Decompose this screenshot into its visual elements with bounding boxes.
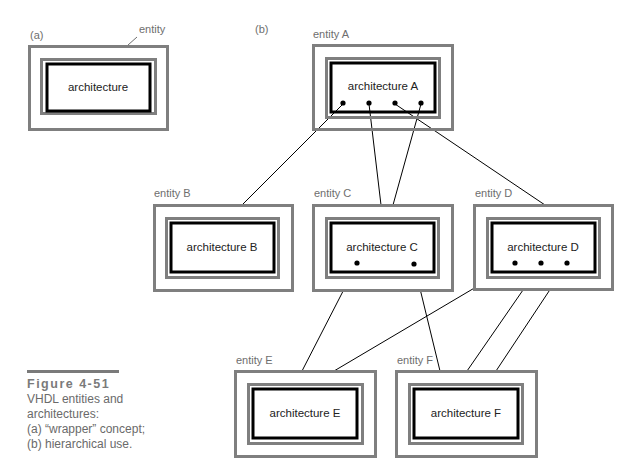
entity-e: entity E architecture E	[236, 354, 376, 457]
caption-line: VHDL entities and	[27, 392, 157, 407]
port-dot	[340, 100, 345, 105]
entity-b: entity B architecture B	[154, 187, 293, 291]
entity-a: entity A architecture A	[313, 28, 453, 130]
port-dot	[512, 260, 517, 265]
panel-b-label: (b)	[255, 23, 268, 35]
architecture-f-label: architecture F	[431, 407, 501, 419]
port-dot	[538, 260, 543, 265]
architecture-a-ports	[340, 100, 423, 105]
architecture-b-label: architecture B	[187, 241, 258, 253]
entity-d-label: entity D	[475, 187, 512, 199]
architecture-d-label: architecture D	[507, 241, 579, 253]
connection-a-c-1	[369, 104, 381, 205]
entity-e-label: entity E	[236, 354, 273, 366]
entity-c-label: entity C	[314, 187, 351, 199]
figure-number: Figure 4-51	[27, 377, 157, 392]
port-dot	[392, 100, 397, 105]
port-dot	[418, 100, 423, 105]
port-dot	[564, 260, 569, 265]
entity-a-label: entity A	[313, 28, 350, 40]
port-dot	[411, 261, 416, 266]
caption-rule	[27, 370, 119, 373]
port-dot	[354, 260, 359, 265]
entity-c: entity C architecture C	[314, 187, 453, 291]
connection-a-d	[395, 104, 545, 205]
port-dot	[366, 100, 371, 105]
architecture-e-label: architecture E	[270, 407, 341, 419]
panel-a-label: (a)	[30, 29, 43, 41]
entity-d: entity D architecture D	[475, 187, 613, 290]
figure-caption: Figure 4-51 VHDL entities and architectu…	[27, 370, 157, 452]
caption-line: (b) hierarchical use.	[27, 437, 157, 452]
architecture-a-label: architecture A	[348, 80, 419, 92]
entity-f-label: entity F	[397, 354, 433, 366]
entity-f: entity F architecture F	[397, 354, 537, 457]
caption-line: architectures:	[27, 407, 157, 422]
entity-callout-leader	[128, 37, 137, 45]
entity-b-label: entity B	[154, 187, 191, 199]
caption-line: (a) “wrapper” concept;	[27, 422, 157, 437]
entity-callout-label: entity	[139, 23, 166, 35]
architecture-label: architecture	[68, 81, 128, 93]
architecture-c-label: architecture C	[346, 241, 418, 253]
panel-a: (a) entity architecture	[30, 23, 168, 130]
